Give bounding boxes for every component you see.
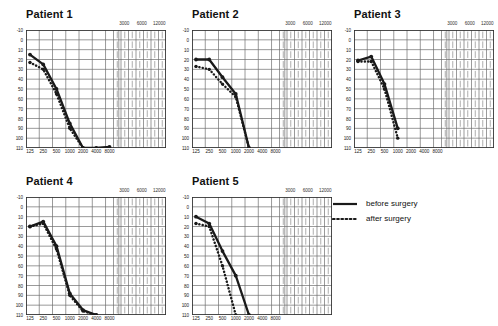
y-axis-tick: 80	[18, 283, 23, 288]
data-point	[42, 68, 45, 71]
grid	[26, 197, 166, 315]
top-axis-tick: 3000	[119, 21, 129, 26]
x-axis-tick: 250	[206, 316, 213, 321]
data-point	[208, 225, 211, 228]
plot-area: -100102030405060708090100110125250500100…	[192, 197, 332, 315]
x-axis-labels: 1252505001000200040008000	[354, 149, 494, 158]
data-point	[207, 58, 211, 62]
y-axis-tick: 90	[18, 126, 23, 131]
x-axis-tick: 500	[381, 149, 388, 154]
plot-area: -100102030405060708090100110125250500100…	[26, 30, 166, 148]
y-axis-tick: 0	[187, 37, 189, 42]
y-axis-tick: 20	[346, 57, 351, 62]
x-axis-labels: 1252505001000200040008000	[192, 316, 332, 325]
y-axis-tick: 80	[18, 116, 23, 121]
y-axis-tick: 40	[184, 244, 189, 249]
y-axis-tick: 90	[184, 126, 189, 131]
y-axis-tick: 110	[16, 146, 23, 151]
legend-key-dotted-line	[332, 214, 358, 224]
top-axis-tick: 12000	[153, 21, 165, 26]
data-point	[55, 92, 58, 95]
plot-area: -100102030405060708090100110125250500100…	[26, 197, 166, 315]
y-axis-tick: 90	[18, 293, 23, 298]
x-axis-tick: 250	[40, 316, 47, 321]
top-axis-tick: 3000	[447, 21, 457, 26]
x-axis-tick: 250	[368, 149, 375, 154]
y-axis-tick: 10	[18, 47, 23, 52]
data-point	[221, 249, 225, 253]
panel-title: Patient 3	[354, 8, 401, 20]
y-axis-tick: 20	[18, 224, 23, 229]
y-axis-labels: -100102030405060708090100110	[331, 30, 352, 148]
y-axis-tick: 110	[16, 313, 23, 318]
y-axis-tick: 0	[21, 204, 23, 209]
x-axis-tick: 500	[219, 316, 226, 321]
y-axis-tick: -10	[183, 28, 189, 33]
x-axis-tick: 125	[192, 316, 199, 321]
y-axis-tick: 30	[346, 67, 351, 72]
y-axis-tick: 70	[184, 273, 189, 278]
y-axis-tick: 40	[18, 77, 23, 82]
legend: before surgery after surgery	[332, 196, 492, 226]
y-axis-tick: -10	[345, 28, 351, 33]
x-axis-tick: 8000	[433, 149, 443, 154]
y-axis-tick: -10	[17, 195, 23, 200]
top-axis-tick: 6000	[137, 188, 147, 193]
data-point	[28, 53, 32, 57]
panel-patient-2: Patient 23000600012000-10010203040506070…	[168, 8, 338, 168]
panel-title: Patient 2	[192, 8, 239, 20]
y-axis-tick: 100	[16, 303, 23, 308]
data-point	[55, 247, 58, 250]
top-axis-labels: 3000600012000	[330, 21, 498, 30]
panel-patient-3: Patient 33000600012000-10010203040506070…	[330, 8, 498, 168]
data-point	[369, 55, 373, 59]
y-axis-tick: 0	[187, 204, 189, 209]
data-point	[55, 87, 59, 91]
data-point	[68, 127, 71, 130]
data-point	[356, 60, 359, 63]
y-axis-tick: 110	[182, 146, 189, 151]
data-point	[42, 222, 45, 225]
y-axis-labels: -100102030405060708090100110	[3, 197, 24, 315]
series-line-before-surgery	[30, 222, 96, 315]
data-point	[221, 264, 224, 267]
x-axis-tick: 125	[192, 149, 199, 154]
legend-item-after-surgery: after surgery	[332, 211, 492, 226]
y-axis-tick: 110	[344, 146, 351, 151]
x-axis-tick: 4000	[91, 316, 101, 321]
y-axis-tick: 10	[184, 214, 189, 219]
data-point	[234, 274, 238, 278]
data-point	[221, 75, 225, 79]
y-axis-tick: 60	[18, 96, 23, 101]
x-axis-tick: 4000	[257, 149, 267, 154]
x-axis-tick: 1000	[65, 316, 75, 321]
plot-canvas	[192, 197, 332, 315]
top-axis-tick: 6000	[303, 21, 313, 26]
y-axis-tick: 30	[18, 67, 23, 72]
x-axis-tick: 1000	[231, 316, 241, 321]
data-point	[396, 126, 400, 130]
grid	[192, 30, 332, 148]
panel-patient-4: Patient 43000600012000-10010203040506070…	[2, 175, 172, 326]
series-line-after-surgery	[30, 62, 83, 148]
x-axis-tick: 4000	[91, 149, 101, 154]
y-axis-labels: -100102030405060708090100110	[169, 30, 190, 148]
y-axis-tick: 20	[18, 57, 23, 62]
data-point	[108, 145, 112, 148]
y-axis-tick: -10	[17, 28, 23, 33]
y-axis-tick: 10	[346, 47, 351, 52]
y-axis-tick: 40	[346, 77, 351, 82]
data-point	[194, 222, 197, 225]
panel-patient-5: Patient 53000600012000-10010203040506070…	[168, 175, 338, 326]
data-point	[234, 95, 237, 98]
panel-title: Patient 1	[26, 8, 73, 20]
y-axis-tick: -10	[183, 195, 189, 200]
y-axis-tick: 50	[346, 87, 351, 92]
y-axis-tick: 100	[16, 136, 23, 141]
data-point	[208, 68, 211, 71]
x-axis-labels: 1252505001000200040008000	[26, 149, 166, 158]
x-axis-tick: 125	[354, 149, 361, 154]
y-axis-tick: 90	[346, 126, 351, 131]
audiogram-figure: Patient 13000600012000-10010203040506070…	[0, 0, 498, 326]
data-point	[81, 309, 84, 312]
